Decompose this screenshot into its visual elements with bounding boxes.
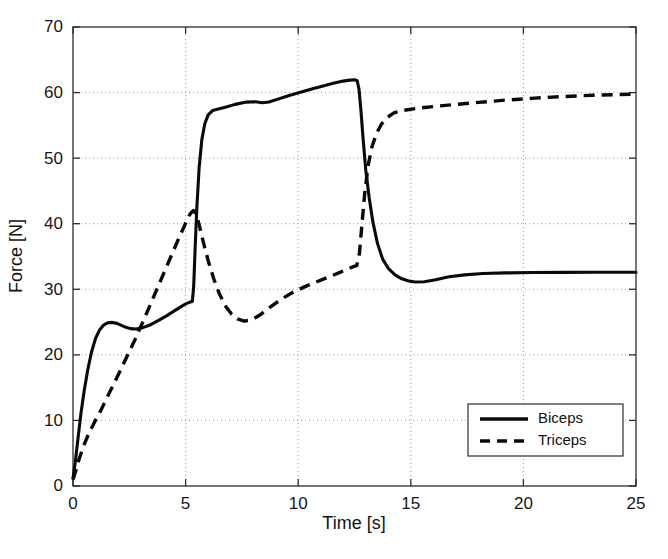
y-tick-label: 70 [44,17,63,36]
chart-figure: 0102030405060700510152025 BicepsTriceps … [0,0,668,559]
force-time-line-chart: 0102030405060700510152025 BicepsTriceps … [0,0,668,559]
x-tick-label: 10 [289,494,308,513]
x-tick-label: 5 [181,494,190,513]
y-tick-label: 0 [54,476,63,495]
x-axis-title: Time [s] [322,513,385,533]
x-tick-label: 20 [514,494,533,513]
y-tick-label: 20 [44,345,63,364]
legend-label-triceps: Triceps [538,431,587,448]
y-tick-label: 10 [44,411,63,430]
y-tick-label: 50 [44,149,63,168]
y-tick-label: 30 [44,280,63,299]
y-tick-label: 60 [44,83,63,102]
y-tick-label: 40 [44,214,63,233]
y-axis-title: Force [N] [6,219,26,293]
x-tick-label: 0 [68,494,77,513]
x-tick-label: 25 [627,494,646,513]
x-tick-label: 15 [401,494,420,513]
legend-label-biceps: Biceps [538,409,583,426]
chart-legend: BicepsTriceps [468,404,623,456]
